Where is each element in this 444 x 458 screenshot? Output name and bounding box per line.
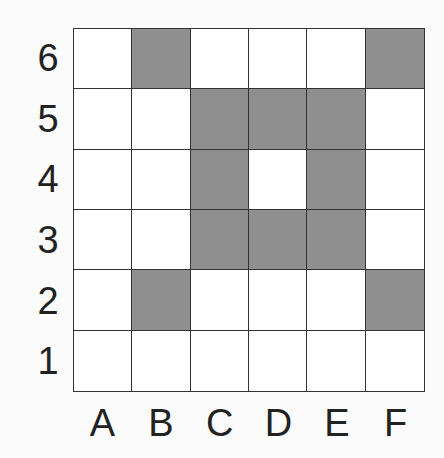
grid-cell-d1 (249, 331, 307, 391)
grid-cell-f2 (366, 270, 424, 330)
grid-cell-e2 (307, 270, 365, 330)
grid-cell-c6 (191, 29, 249, 89)
grid-cell-a6 (74, 29, 132, 89)
grid-cell-f1 (366, 331, 424, 391)
grid-cell-b5 (132, 89, 190, 149)
grid-cell-e1 (307, 331, 365, 391)
col-label-f: F (366, 398, 425, 448)
col-label-b: B (132, 398, 191, 448)
grid-cell-c3 (191, 210, 249, 270)
grid-cell-c2 (191, 270, 249, 330)
grid-cell-f3 (366, 210, 424, 270)
row-label-4: 4 (28, 149, 68, 210)
grid-cell-f4 (366, 150, 424, 210)
col-label-c: C (190, 398, 249, 448)
row-label-2: 2 (28, 271, 68, 332)
grid-cell-a1 (74, 331, 132, 391)
grid-cell-b6 (132, 29, 190, 89)
grid-cell-c4 (191, 150, 249, 210)
grid-cell-c5 (191, 89, 249, 149)
col-label-e: E (308, 398, 367, 448)
row-labels: 6 5 4 3 2 1 (28, 28, 68, 392)
grid-cell-e4 (307, 150, 365, 210)
row-label-3: 3 (28, 210, 68, 271)
grid-cell-a3 (74, 210, 132, 270)
row-label-5: 5 (28, 89, 68, 150)
grid-cell-a2 (74, 270, 132, 330)
col-label-a: A (73, 398, 132, 448)
grid-cell-f6 (366, 29, 424, 89)
grid-cell-a5 (74, 89, 132, 149)
grid-cell-d5 (249, 89, 307, 149)
column-labels: A B C D E F (73, 398, 425, 448)
grid-cell-b3 (132, 210, 190, 270)
grid-cell-e6 (307, 29, 365, 89)
row-label-6: 6 (28, 28, 68, 89)
grid-cell-b1 (132, 331, 190, 391)
grid-cell-c1 (191, 331, 249, 391)
grid-cell-e3 (307, 210, 365, 270)
row-label-1: 1 (28, 331, 68, 392)
grid-cell-a4 (74, 150, 132, 210)
grid-cell-d4 (249, 150, 307, 210)
grid-cell-b4 (132, 150, 190, 210)
grid-cell-f5 (366, 89, 424, 149)
pixel-grid (73, 28, 425, 392)
grid-cell-e5 (307, 89, 365, 149)
grid-cell-d2 (249, 270, 307, 330)
grid-cell-b2 (132, 270, 190, 330)
grid-cell-d3 (249, 210, 307, 270)
grid-cell-d6 (249, 29, 307, 89)
col-label-d: D (249, 398, 308, 448)
